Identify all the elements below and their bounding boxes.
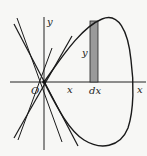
strip-width-label: dx — [89, 85, 101, 96]
tangent-line-upper — [14, 36, 72, 138]
curve-diagram: y x O x y dx — [0, 0, 147, 156]
x-axis-end-label: x — [137, 84, 143, 95]
origin-point — [42, 80, 46, 84]
origin-label: O — [31, 85, 39, 96]
y-axis-label: y — [46, 16, 53, 27]
x-position-label: x — [67, 84, 73, 95]
area-strip — [90, 21, 98, 82]
strip-height-label: y — [81, 47, 88, 58]
